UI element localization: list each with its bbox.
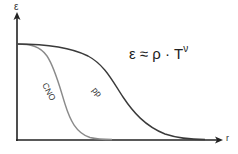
diagram-canvas — [0, 0, 238, 154]
y-axis-label: ε — [14, 1, 18, 12]
x-axis-label: r — [226, 133, 229, 143]
formula-base: ε ≈ ρ · T — [129, 45, 183, 62]
energy-generation-diagram: ε r ε ≈ ρ · Tν CNO pp — [0, 0, 238, 154]
formula-exponent: ν — [183, 43, 188, 54]
energy-formula: ε ≈ ρ · Tν — [129, 43, 188, 62]
